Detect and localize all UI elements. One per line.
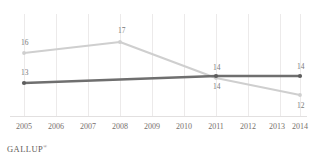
point-declining-2014 (298, 93, 302, 97)
point-flat-2011 (214, 74, 218, 78)
value-label-flat-2011: 14 (213, 83, 221, 91)
x-tick-2014: 2014 (292, 121, 308, 132)
line-flat-series (24, 76, 300, 83)
x-tick-2011: 2011 (208, 121, 224, 132)
gallup-brand-text: GALLUP (7, 144, 43, 154)
point-flat-2014 (298, 74, 302, 78)
point-declining-2005 (22, 51, 26, 55)
line-declining-series (24, 42, 300, 95)
x-tick-2007: 2007 (80, 121, 96, 132)
value-label-declining-2011: 14 (213, 64, 221, 72)
x-axis: 2005 2006 2007 2008 2009 2010 2011 2012 … (0, 121, 317, 133)
point-flat-2005 (22, 81, 26, 85)
axis-baseline (10, 116, 307, 117)
x-tick-2008: 2008 (112, 121, 128, 132)
value-label-declining-2005: 16 (21, 39, 29, 47)
chart-title (6, 0, 311, 5)
line-chart-figure: 16 17 14 12 13 14 14 2005 2006 2007 2008… (0, 0, 317, 159)
x-tick-2009: 2009 (144, 121, 160, 132)
plot-area: 16 17 14 12 13 14 14 (10, 14, 307, 117)
series-plot (10, 14, 307, 117)
x-tick-2005: 2005 (16, 121, 32, 132)
gallup-wordmark: GALLUP® (7, 141, 47, 155)
point-declining-2008 (118, 40, 122, 44)
x-tick-2010: 2010 (176, 121, 192, 132)
trademark-icon: ® (43, 144, 47, 149)
value-label-declining-2008: 17 (118, 27, 126, 35)
x-tick-2006: 2006 (48, 121, 64, 132)
x-tick-2013: 2013 (269, 121, 285, 132)
x-tick-2012: 2012 (240, 121, 256, 132)
value-label-declining-2014: 12 (297, 102, 305, 110)
value-label-flat-2005: 13 (21, 69, 29, 77)
value-label-flat-2014: 14 (297, 63, 305, 71)
